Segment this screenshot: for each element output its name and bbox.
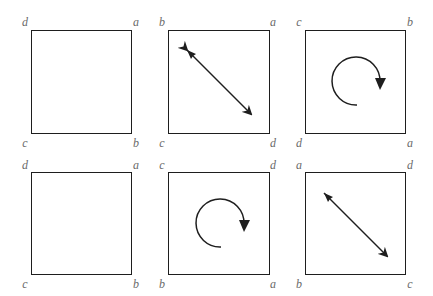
arrow-overlay <box>0 0 433 296</box>
diagonal-double-arrow-icon <box>324 193 387 256</box>
diagonal-double-arrow-icon <box>187 50 251 114</box>
symmetry-diagram: d a c b b a c d c b d a d a c b c d b a … <box>0 0 433 296</box>
rotation-arrow-icon <box>332 57 386 105</box>
rotation-arrow-icon <box>196 199 250 247</box>
